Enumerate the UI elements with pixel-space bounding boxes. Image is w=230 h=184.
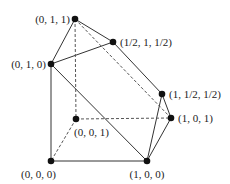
label-v1-half-half: (1, 1/2, 1/2) [169,88,221,101]
vertex-v_half1half [110,39,117,46]
edge-v010-v_half1half [51,42,113,64]
label-v101: (1, 0, 1) [178,112,213,125]
vertex-v001 [73,116,80,123]
label-v010: (0, 1, 0) [11,58,46,71]
label-v100: (1, 0, 0) [130,168,165,181]
label-v001: (0, 0, 1) [74,126,109,139]
vertex-v101 [168,115,175,122]
edge-v_half1half-v1halfhalf [113,42,162,94]
vertex-v010 [48,61,55,68]
vertex-labels: (0, 1, 1) (1/2, 1, 1/2) (0, 1, 0) (1, 1/… [11,13,221,181]
vertex-v100 [144,158,151,165]
label-v-half-1-half: (1/2, 1, 1/2) [120,36,172,49]
polytope-diagram: (0, 1, 1) (1/2, 1, 1/2) (0, 1, 0) (1, 1/… [0,0,230,184]
label-v011: (0, 1, 1) [35,13,70,26]
label-v000: (0, 0, 0) [21,168,56,181]
hidden-edge-v011-v001 [75,19,76,119]
edge-v101-v100 [147,118,171,161]
vertex-v1halfhalf [159,91,166,98]
hidden-edge-v001-v000 [51,119,76,161]
vertex-v000 [48,158,55,165]
vertex-v011 [72,16,79,23]
edge-v1halfhalf-v100 [147,94,162,161]
